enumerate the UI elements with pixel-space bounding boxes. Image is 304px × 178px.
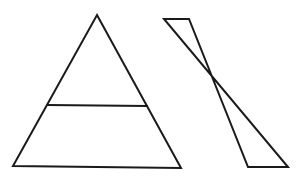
diagram-canvas bbox=[0, 0, 304, 178]
background bbox=[0, 0, 304, 178]
triangle-horizontal-chord bbox=[48, 105, 147, 106]
